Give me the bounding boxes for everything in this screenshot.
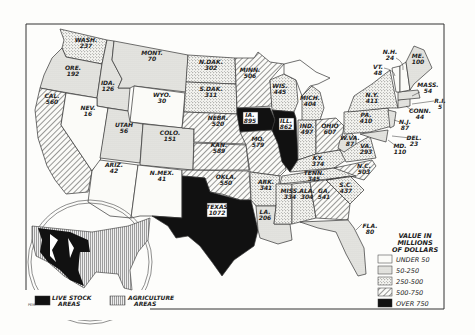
svg-text:KAN.589: KAN.589	[211, 141, 228, 154]
svg-text:ORE.192: ORE.192	[65, 64, 81, 77]
svg-text:OVER 750: OVER 750	[396, 300, 429, 308]
svg-text:IDA.126: IDA.126	[101, 79, 115, 92]
svg-text:CAL.560: CAL.560	[44, 92, 59, 105]
svg-text:DEL.23: DEL.23	[406, 134, 421, 147]
svg-text:50-250: 50-250	[396, 267, 419, 275]
svg-text:ALA.304: ALA.304	[298, 187, 315, 200]
svg-text:UNDER 50: UNDER 50	[396, 256, 430, 264]
svg-text:IND.497: IND.497	[300, 122, 315, 135]
livestock-swatch	[35, 296, 50, 305]
svg-text:500-750: 500-750	[396, 289, 423, 297]
svg-text:MD.110: MD.110	[393, 142, 406, 155]
us-choropleth-map: WASH.237 ORE.192 CAL.560 IDA.126 NEV.16 …	[0, 0, 475, 335]
svg-text:N.J.87: N.J.87	[399, 118, 411, 131]
svg-text:AGRICULTUREAREAS: AGRICULTUREAREAS	[127, 294, 175, 307]
svg-text:250-500: 250-500	[396, 278, 423, 286]
svg-text:KY.374: KY.374	[312, 154, 325, 167]
svg-text:S.C.437: S.C.437	[339, 181, 353, 194]
inset-map	[20, 200, 152, 324]
svg-text:N.C.503: N.C.503	[357, 162, 371, 175]
svg-text:GA.541: GA.541	[318, 187, 331, 200]
svg-text:PA.410: PA.410	[360, 111, 373, 124]
credit: PEM	[28, 303, 35, 307]
svg-text:ILL.862: ILL.862	[280, 117, 293, 130]
svg-text:IA.895: IA.895	[244, 111, 257, 124]
svg-text:TEXAS1072: TEXAS1072	[206, 203, 228, 216]
svg-text:ARK.341: ARK.341	[257, 178, 274, 191]
svg-text:N.Y.411: N.Y.411	[366, 91, 379, 104]
value-legend: VALUE INMILLIONSOF DOLLARS UNDER 50 50-2…	[378, 232, 438, 308]
svg-text:CONN.44: CONN.44	[409, 107, 431, 120]
svg-text:OHIO607: OHIO607	[321, 122, 338, 135]
svg-text:WIS.445: WIS.445	[272, 82, 287, 95]
state-fla	[300, 220, 366, 276]
agriculture-swatch	[110, 296, 125, 305]
svg-text:VT.48: VT.48	[373, 63, 383, 76]
svg-text:TENN.345: TENN.345	[304, 169, 325, 182]
svg-text:ME.100: ME.100	[412, 52, 425, 65]
svg-text:N.H.24: N.H.24	[383, 48, 398, 61]
svg-text:FLA.80: FLA.80	[363, 222, 378, 235]
svg-text:LA.206: LA.206	[259, 208, 272, 221]
svg-text:MO.579: MO.579	[251, 135, 264, 148]
svg-text:VALUE INMILLIONSOF DOLLARS: VALUE INMILLIONSOF DOLLARS	[392, 232, 438, 254]
svg-text:MASS.54: MASS.54	[417, 81, 438, 94]
svg-text:VA.293: VA.293	[360, 142, 373, 155]
